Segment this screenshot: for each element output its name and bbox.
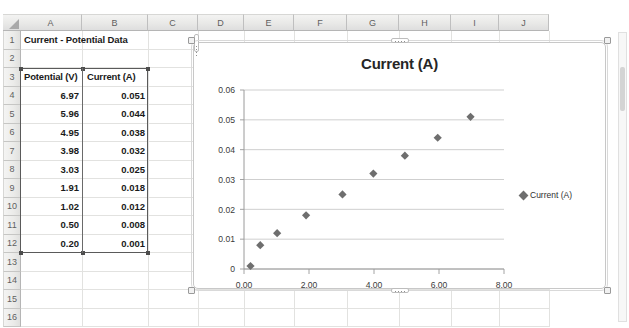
cell-B16[interactable]: [83, 309, 149, 328]
cell-J16[interactable]: [500, 309, 550, 328]
column-header-f[interactable]: F: [294, 14, 347, 31]
cell-B14[interactable]: [83, 272, 149, 291]
cell-E15[interactable]: [245, 290, 295, 309]
data-point-marker[interactable]: [256, 241, 264, 249]
cell-E16[interactable]: [245, 309, 295, 328]
cell-A8[interactable]: 3.03: [21, 161, 83, 180]
select-all-button[interactable]: [3, 14, 21, 31]
chart-resize-handle-top-left[interactable]: [188, 37, 195, 44]
row-header-9[interactable]: 9: [3, 179, 21, 198]
cell-B9[interactable]: 0.018: [83, 179, 149, 198]
cell-B6[interactable]: 0.038: [83, 124, 149, 143]
cell-C9[interactable]: [149, 179, 199, 198]
row-header-11[interactable]: 11: [3, 216, 21, 235]
row-header-7[interactable]: 7: [3, 142, 21, 161]
row-header-16[interactable]: 16: [3, 309, 21, 328]
cell-C4[interactable]: [149, 87, 199, 106]
column-header-h[interactable]: H: [399, 14, 451, 31]
vertical-scrollbar[interactable]: [618, 32, 627, 322]
cell-G16[interactable]: [348, 309, 400, 328]
data-point-marker[interactable]: [338, 190, 346, 198]
chart-resize-handle-bottom-right[interactable]: [604, 287, 611, 294]
row-header-14[interactable]: 14: [3, 272, 21, 291]
cell-A16[interactable]: [21, 309, 83, 328]
cell-F16[interactable]: [295, 309, 348, 328]
row-header-8[interactable]: 8: [3, 161, 21, 180]
column-header-c[interactable]: C: [148, 14, 198, 31]
column-header-a[interactable]: A: [20, 14, 82, 31]
column-header-b[interactable]: B: [82, 14, 148, 31]
cell-B8[interactable]: 0.025: [83, 161, 149, 180]
cell-B10[interactable]: 0.012: [83, 198, 149, 217]
cell-J15[interactable]: [500, 290, 550, 309]
column-header-i[interactable]: I: [451, 14, 499, 31]
cell-C13[interactable]: [149, 253, 199, 272]
cell-B12[interactable]: 0.001: [83, 235, 149, 254]
cell-B13[interactable]: [83, 253, 149, 272]
cell-C8[interactable]: [149, 161, 199, 180]
row-header-15[interactable]: 15: [3, 290, 21, 309]
cell-B2[interactable]: [83, 50, 149, 69]
data-point-marker[interactable]: [401, 152, 409, 160]
cell-C7[interactable]: [149, 142, 199, 161]
cell-B5[interactable]: 0.044: [83, 105, 149, 124]
chart-resize-handle-bottom[interactable]: [391, 288, 409, 293]
cell-B11[interactable]: 0.008: [83, 216, 149, 235]
chart-resize-handle-top[interactable]: [391, 38, 409, 43]
cell-A3[interactable]: Potential (V): [21, 68, 83, 87]
cell-A7[interactable]: 3.98: [21, 142, 83, 161]
cell-C11[interactable]: [149, 216, 199, 235]
column-header-g[interactable]: G: [347, 14, 399, 31]
cell-A4[interactable]: 6.97: [21, 87, 83, 106]
cell-A14[interactable]: [21, 272, 83, 291]
row-header-3[interactable]: 3: [3, 68, 21, 87]
cell-A9[interactable]: 1.91: [21, 179, 83, 198]
cell-B15[interactable]: [83, 290, 149, 309]
chart-resize-handle-bottom-left[interactable]: [188, 287, 195, 294]
cell-C2[interactable]: [149, 50, 199, 69]
row-header-5[interactable]: 5: [3, 105, 21, 124]
row-header-6[interactable]: 6: [3, 124, 21, 143]
cell-A1[interactable]: Current - Potential Data: [21, 31, 83, 50]
cell-C16[interactable]: [149, 309, 199, 328]
cell-F15[interactable]: [295, 290, 348, 309]
row-header-1[interactable]: 1: [3, 31, 21, 50]
cell-D16[interactable]: [199, 309, 245, 328]
cell-A10[interactable]: 1.02: [21, 198, 83, 217]
cell-A15[interactable]: [21, 290, 83, 309]
cell-I15[interactable]: [452, 290, 500, 309]
row-header-4[interactable]: 4: [3, 87, 21, 106]
cell-C12[interactable]: [149, 235, 199, 254]
data-point-marker[interactable]: [434, 134, 442, 142]
cell-C3[interactable]: [149, 68, 199, 87]
cell-A5[interactable]: 5.96: [21, 105, 83, 124]
cell-C6[interactable]: [149, 124, 199, 143]
row-header-13[interactable]: 13: [3, 253, 21, 272]
row-header-12[interactable]: 12: [3, 235, 21, 254]
column-header-e[interactable]: E: [244, 14, 294, 31]
data-point-marker[interactable]: [273, 229, 281, 237]
row-header-10[interactable]: 10: [3, 198, 21, 217]
cell-A13[interactable]: [21, 253, 83, 272]
column-header-j[interactable]: J: [499, 14, 549, 31]
cell-A11[interactable]: 0.50: [21, 216, 83, 235]
cell-A12[interactable]: 0.20: [21, 235, 83, 254]
cell-C10[interactable]: [149, 198, 199, 217]
cell-B3[interactable]: Current (A): [83, 68, 149, 87]
cell-A6[interactable]: 4.95: [21, 124, 83, 143]
cell-C5[interactable]: [149, 105, 199, 124]
column-header-d[interactable]: D: [198, 14, 244, 31]
data-point-marker[interactable]: [369, 169, 377, 177]
chart-resize-handle-top-right[interactable]: [604, 37, 611, 44]
data-point-marker[interactable]: [302, 211, 310, 219]
cell-H16[interactable]: [400, 309, 452, 328]
cell-B4[interactable]: 0.051: [83, 87, 149, 106]
row-header-2[interactable]: 2: [3, 50, 21, 69]
cell-A2[interactable]: [21, 50, 83, 69]
chart-object[interactable]: Current (A) 00.010.020.030.040.050.060.0…: [193, 42, 606, 289]
cell-I16[interactable]: [452, 309, 500, 328]
vertical-scrollbar-thumb[interactable]: [620, 67, 625, 111]
chart-legend[interactable]: Current (A): [520, 190, 572, 200]
cell-D15[interactable]: [199, 290, 245, 309]
cell-B7[interactable]: 0.032: [83, 142, 149, 161]
